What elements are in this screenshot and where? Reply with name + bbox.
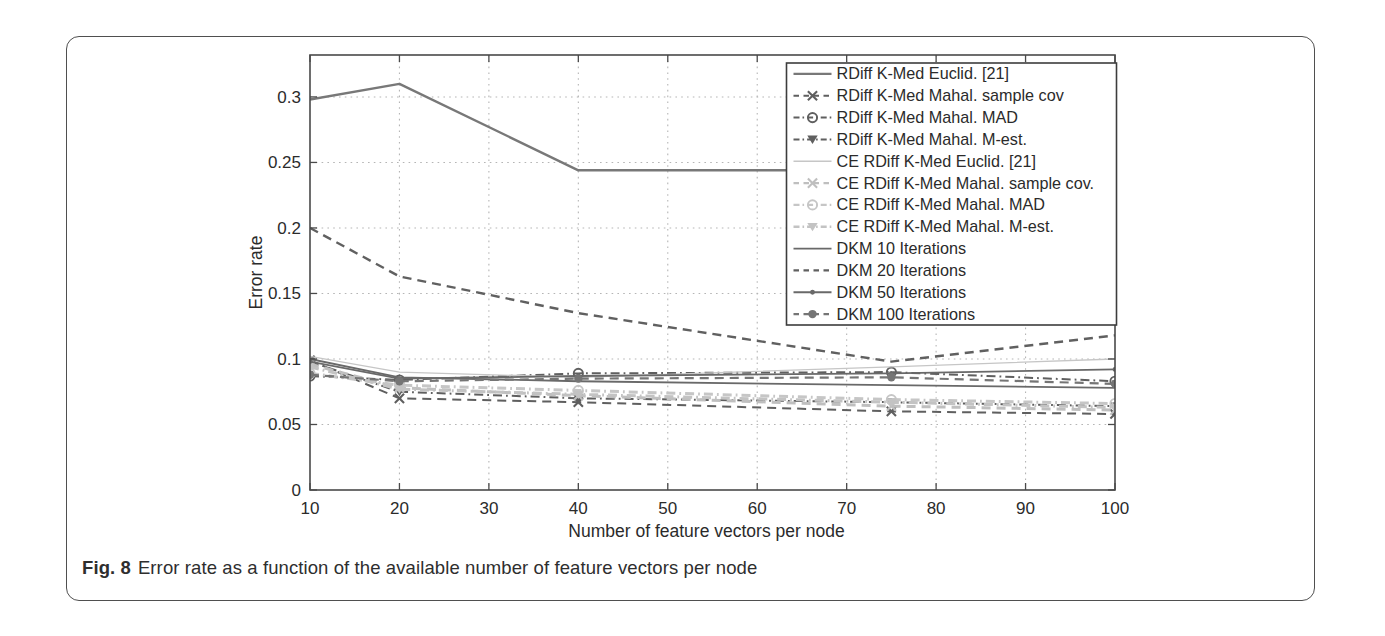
legend-entry-label: RDiff K-Med Mahal. sample cov <box>837 86 1065 104</box>
legend-entry-label: RDiff K-Med Mahal. M-est. <box>837 130 1027 148</box>
y-tick-label: 0.1 <box>277 350 301 369</box>
legend-entry-label: DKM 10 Iterations <box>837 239 967 257</box>
y-tick-label: 0 <box>292 481 301 500</box>
figure-caption: Fig. 8Error rate as a function of the av… <box>82 557 1182 579</box>
y-tick-label: 0.25 <box>268 153 301 172</box>
legend-entry-label: CE RDiff K-Med Euclid. [21] <box>837 152 1036 170</box>
x-tick-label: 20 <box>390 499 409 518</box>
series-4 <box>305 358 1120 411</box>
x-tick-label: 10 <box>301 499 320 518</box>
figure-caption-text: Error rate as a function of the availabl… <box>138 557 757 578</box>
y-tick-label: 0.3 <box>277 88 301 107</box>
y-tick-label: 0.2 <box>277 219 301 238</box>
x-tick-label: 40 <box>569 499 588 518</box>
legend-entry-label: DKM 20 Iterations <box>837 261 967 279</box>
x-tick-label: 70 <box>837 499 856 518</box>
dot-marker-icon <box>810 290 815 295</box>
y-axis-label: Error rate <box>246 236 266 310</box>
series-11 <box>308 359 1118 381</box>
filled-circle-marker-icon <box>808 310 816 318</box>
x-tick-label: 80 <box>927 499 946 518</box>
legend: RDiff K-Med Euclid. [21]RDiff K-Med Maha… <box>787 63 1117 325</box>
error-rate-chart: 10203040506070809010000.050.10.150.20.25… <box>0 0 1385 636</box>
x-tick-label: 50 <box>658 499 677 518</box>
legend-entry-label: DKM 50 Iterations <box>837 283 967 301</box>
legend-entry-label: RDiff K-Med Euclid. [21] <box>837 64 1009 82</box>
page-background: 10203040506070809010000.050.10.150.20.25… <box>0 0 1385 636</box>
legend-entry: CE RDiff K-Med Mahal. sample cov. <box>794 174 1095 192</box>
legend-entry-label: CE RDiff K-Med Mahal. M-est. <box>837 217 1054 235</box>
figure-caption-label: Fig. 8 <box>82 557 131 578</box>
filled-circle-marker-icon <box>395 377 403 385</box>
y-tick-label: 0.05 <box>268 415 301 434</box>
filled-circle-marker-icon <box>887 373 895 381</box>
x-tick-label: 60 <box>748 499 767 518</box>
x-tick-label: 30 <box>479 499 498 518</box>
filled-circle-marker-icon <box>574 374 582 382</box>
legend-entry-label: CE RDiff K-Med Mahal. MAD <box>837 195 1045 213</box>
x-tick-label: 100 <box>1101 499 1129 518</box>
legend-entry-label: CE RDiff K-Med Mahal. sample cov. <box>837 174 1095 192</box>
x-axis-label: Number of feature vectors per node <box>568 521 844 541</box>
legend-entry-label: DKM 100 Iterations <box>837 305 976 323</box>
y-tick-label: 0.15 <box>268 284 301 303</box>
legend-entry-label: RDiff K-Med Mahal. MAD <box>837 108 1018 126</box>
x-tick-label: 90 <box>1016 499 1035 518</box>
